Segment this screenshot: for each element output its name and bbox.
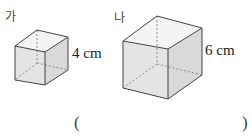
dimension-label-na: 6 cm [205, 42, 235, 59]
answer-paren-close: ) [242, 113, 248, 133]
cube-na [123, 16, 211, 99]
cube-ga [15, 30, 73, 85]
figure-label-na: 나 [114, 8, 125, 25]
dimension-label-ga: 4 cm [72, 45, 102, 62]
figure-label-ga: 가 [5, 7, 16, 24]
answer-paren-open: ( [74, 113, 80, 133]
answer-blank[interactable] [84, 114, 238, 132]
